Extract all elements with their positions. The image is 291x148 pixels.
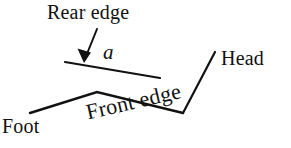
blade-diagram: Rear edge a Head Foot Front edge <box>0 0 291 148</box>
diagram-canvas <box>0 0 291 148</box>
rear-edge-line <box>65 62 160 78</box>
label-angle-a: a <box>103 42 114 63</box>
label-rear-edge: Rear edge <box>47 2 129 22</box>
label-head: Head <box>221 48 264 68</box>
label-foot: Foot <box>2 116 39 136</box>
head-leader-line <box>183 52 215 113</box>
